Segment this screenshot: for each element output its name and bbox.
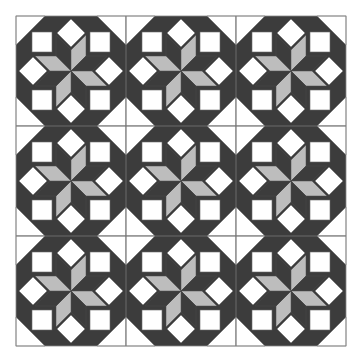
white-square <box>32 310 52 330</box>
white-square <box>310 200 330 220</box>
white-square <box>252 310 272 330</box>
white-square <box>90 90 110 110</box>
white-square <box>32 200 52 220</box>
white-square <box>200 252 220 272</box>
white-square <box>142 252 162 272</box>
quilt-blocks <box>16 16 346 346</box>
white-square <box>90 252 110 272</box>
star-block <box>236 236 346 346</box>
star-block <box>126 236 236 346</box>
white-square <box>142 90 162 110</box>
white-square <box>90 142 110 162</box>
white-square <box>200 142 220 162</box>
star-block <box>236 126 346 236</box>
white-square <box>90 32 110 52</box>
quilt-pattern-image <box>0 0 360 358</box>
white-square <box>310 32 330 52</box>
white-square <box>90 200 110 220</box>
white-square <box>32 142 52 162</box>
white-square <box>142 310 162 330</box>
white-square <box>310 142 330 162</box>
white-square <box>90 310 110 330</box>
white-square <box>200 200 220 220</box>
white-square <box>142 200 162 220</box>
white-square <box>310 310 330 330</box>
star-block <box>16 236 126 346</box>
white-square <box>252 142 272 162</box>
white-square <box>32 90 52 110</box>
white-square <box>142 32 162 52</box>
star-block <box>126 126 236 236</box>
white-square <box>200 310 220 330</box>
white-square <box>310 252 330 272</box>
white-square <box>310 90 330 110</box>
white-square <box>32 252 52 272</box>
star-block <box>16 126 126 236</box>
white-square <box>252 200 272 220</box>
star-block <box>126 16 236 126</box>
white-square <box>32 32 52 52</box>
white-square <box>252 90 272 110</box>
white-square <box>200 32 220 52</box>
white-square <box>200 90 220 110</box>
star-block <box>236 16 346 126</box>
white-square <box>252 252 272 272</box>
white-square <box>252 32 272 52</box>
star-block <box>16 16 126 126</box>
white-square <box>142 142 162 162</box>
